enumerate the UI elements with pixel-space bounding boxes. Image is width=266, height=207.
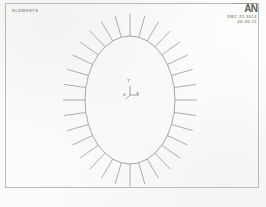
element-plot-graphic — [0, 0, 266, 207]
axis-label-z: Z — [123, 92, 126, 97]
plot-time: 20:35:11 — [207, 19, 257, 24]
ansys-logo: AN — [207, 4, 257, 14]
axis-label-x: X — [136, 91, 139, 96]
scanned-page: ELEMENTS AN DEC 23 2013 20:35:11 Y Z X — [0, 0, 266, 207]
plot-title: ELEMENTS — [12, 8, 38, 13]
ansys-logo-block: AN DEC 23 2013 20:35:11 — [207, 3, 257, 24]
axis-label-y: Y — [127, 78, 130, 83]
